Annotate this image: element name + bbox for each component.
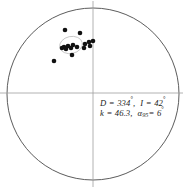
data-point [63, 28, 68, 33]
data-points-group [52, 28, 96, 64]
stereonet-figure: D=334°,I=42° k=46.3,α95=6° [0, 0, 183, 189]
data-point [69, 46, 74, 51]
stereonet-plot [0, 0, 183, 189]
data-point [75, 45, 80, 50]
data-point [87, 40, 92, 45]
data-point [60, 46, 65, 51]
data-point [64, 47, 69, 52]
data-point [78, 31, 83, 36]
data-point [91, 39, 96, 44]
data-point [88, 44, 93, 49]
data-point [83, 42, 88, 47]
data-point [52, 59, 57, 64]
data-point [70, 53, 75, 58]
data-point [82, 46, 87, 51]
